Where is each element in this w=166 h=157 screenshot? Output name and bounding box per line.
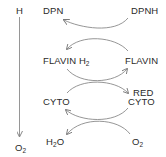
arrow-dpnh-to-dpn — [64, 18, 128, 28]
label-h2o: H2O — [46, 137, 64, 149]
label-o2: O2 — [132, 137, 143, 149]
label-o2-main: O — [132, 136, 140, 147]
label-dpn: DPN — [43, 6, 63, 16]
label-cyto-right: CYTO — [128, 97, 155, 107]
label-flavin-h2-sub: 2 — [86, 60, 90, 67]
label-flavin-h2-main: FLAVIN H — [43, 55, 86, 66]
label-h2o-o: O — [57, 136, 65, 147]
arrow-flavinh2-to-flavin — [67, 69, 127, 81]
axis-bottom-sub: 2 — [23, 147, 27, 154]
axis-bottom-main: O — [15, 142, 23, 153]
label-h2o-h: H — [46, 136, 53, 147]
axis-bottom-label: O2 — [15, 143, 26, 155]
label-flavin: FLAVIN — [125, 56, 158, 66]
label-cyto-left: CYTO — [43, 97, 70, 107]
diagram-arrows — [0, 0, 166, 157]
arrow-o2-to-h2o — [67, 121, 130, 134]
arrow-redcyto-to-cyto — [66, 108, 128, 120]
arrow-flavin-to-flavinh2 — [67, 39, 128, 51]
arrow-cyto-to-redcyto — [67, 82, 128, 93]
label-flavin-h2: FLAVIN H2 — [43, 56, 90, 68]
label-o2-sub: 2 — [140, 141, 144, 148]
label-dpnh: DPNH — [131, 6, 158, 16]
axis-top-label: H — [16, 6, 23, 16]
